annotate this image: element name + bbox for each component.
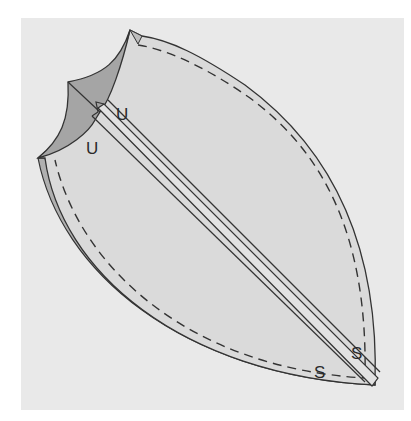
label-u-top: U [116, 105, 128, 124]
label-s-left: S [314, 363, 325, 382]
diagram-canvas: U U S S [0, 0, 411, 421]
label-u-left: U [86, 139, 98, 158]
label-s-right: S [351, 344, 362, 363]
